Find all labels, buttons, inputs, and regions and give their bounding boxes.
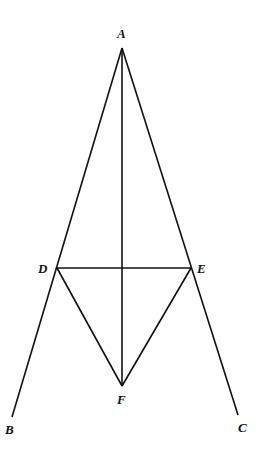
segment-DF — [57, 268, 122, 386]
segment-AB — [12, 48, 122, 417]
label-C: C — [238, 420, 247, 435]
segment-EF — [122, 268, 191, 386]
label-D: D — [37, 261, 48, 276]
label-B: B — [4, 422, 14, 437]
label-E: E — [196, 261, 206, 276]
label-F: F — [116, 392, 126, 407]
segment-AC — [122, 48, 238, 415]
geometry-diagram: A B C D E F — [0, 0, 275, 470]
label-A: A — [116, 26, 126, 41]
